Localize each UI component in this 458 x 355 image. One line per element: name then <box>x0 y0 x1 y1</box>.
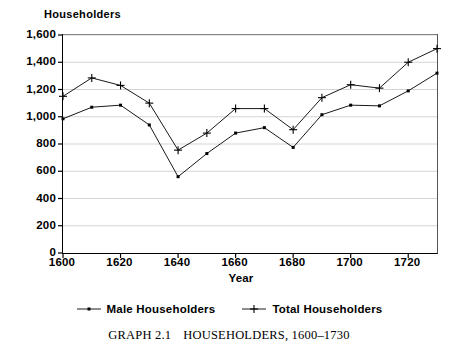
y-tick-label: 800 <box>36 137 56 149</box>
x-tick-label: 1640 <box>164 256 190 268</box>
data-point-marker-plus <box>117 81 125 89</box>
data-point-marker-dot <box>90 106 93 109</box>
y-tick-label: 1,400 <box>26 55 56 67</box>
x-axis-title-text: Year <box>228 272 253 284</box>
data-point-marker-dot <box>177 175 180 178</box>
x-tick-label: 1680 <box>279 256 305 268</box>
series-line <box>63 49 437 151</box>
data-point-marker-plus <box>347 81 355 89</box>
data-point-marker-plus <box>174 146 182 154</box>
chart-figure: Householders 02004006008001,0001,2001,40… <box>0 0 458 355</box>
data-point-marker-dot <box>436 72 439 75</box>
y-tick-label: 1,600 <box>26 28 56 40</box>
data-point-marker-dot <box>148 123 151 126</box>
x-tick-label: 1720 <box>394 256 420 268</box>
data-point-marker-dot <box>62 117 65 120</box>
legend-plus-icon <box>241 303 267 315</box>
x-tick-label: 1600 <box>49 256 75 268</box>
x-tick-label: 1700 <box>336 256 362 268</box>
data-point-marker-dot <box>263 126 266 129</box>
x-tick-label: 1620 <box>106 256 132 268</box>
data-point-marker-plus <box>433 45 441 53</box>
series-total-householders <box>59 45 441 155</box>
y-tick-label: 400 <box>36 192 56 204</box>
y-tick-label: 1,200 <box>26 83 56 95</box>
figure-caption: GRAPH 2.1HOUSEHOLDERS, 1600–1730 <box>0 328 458 343</box>
data-point-marker-dot <box>378 104 381 107</box>
data-point-marker-dot <box>407 89 410 92</box>
legend-label: Total Householders <box>272 303 382 315</box>
y-axis-tick-labels: 02004006008001,0001,2001,4001,600 <box>0 0 56 355</box>
legend-dot-icon <box>76 303 102 315</box>
legend-item: Male Householders <box>76 303 216 315</box>
series-lines <box>63 35 437 253</box>
legend-label: Male Householders <box>107 303 216 315</box>
data-point-marker-dot <box>234 132 237 135</box>
data-point-marker-dot <box>320 113 323 116</box>
plot-area <box>62 34 438 254</box>
data-point-marker-plus <box>88 74 96 82</box>
y-tick-label: 200 <box>36 219 56 231</box>
data-point-marker-dot <box>292 146 295 149</box>
data-point-marker-plus <box>59 92 67 100</box>
data-point-marker-dot <box>87 308 90 311</box>
data-point-marker-dot <box>119 104 122 107</box>
caption-text: HOUSEHOLDERS, 1600–1730 <box>183 328 349 342</box>
data-point-marker-plus <box>260 105 268 113</box>
data-point-marker-plus <box>145 99 153 107</box>
x-axis-title: Year <box>0 272 458 284</box>
data-point-marker-dot <box>205 152 208 155</box>
chart-legend: Male HouseholdersTotal Householders <box>0 303 458 315</box>
y-tick-label: 1,000 <box>26 110 56 122</box>
data-point-marker-dot <box>349 104 352 107</box>
x-tick-label: 1660 <box>221 256 247 268</box>
data-point-marker-plus <box>250 305 258 313</box>
caption-label: GRAPH 2.1 <box>108 328 171 342</box>
legend-item: Total Householders <box>241 303 382 315</box>
y-tick-label: 600 <box>36 164 56 176</box>
